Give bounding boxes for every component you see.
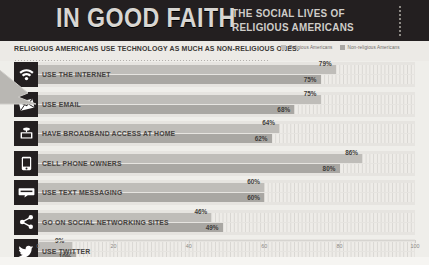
row-bars: 75%68%: [38, 92, 415, 117]
wifi-icon: [14, 62, 38, 87]
page-footer-edge: [0, 257, 429, 265]
share-network-icon: [14, 210, 38, 235]
row-label-broadband: HAVE BROADBAND ACCESS AT HOME: [42, 129, 175, 138]
bar-value-social-networking-non-religious: 49%: [206, 224, 219, 231]
axis-tick-label-0: 0: [37, 243, 40, 249]
bar-value-text-messaging-religious: 60%: [247, 178, 260, 185]
mobile-phone-icon: [14, 151, 38, 176]
dotted-rule: [14, 60, 269, 61]
envelope-icon: [14, 92, 38, 117]
chart-row-email: 75%68%USE EMAIL: [14, 92, 415, 117]
chart-row-broadband: 64%62%HAVE BROADBAND ACCESS AT HOME: [14, 121, 415, 146]
bar-track-religious-americans: [38, 95, 415, 104]
infographic-page: IN GOOD FAITH THE SOCIAL LIVES OF RELIGI…: [0, 0, 429, 265]
row-label-internet: USE THE INTERNET: [42, 70, 111, 79]
desktop-computer-icon: [14, 121, 38, 146]
bar-chart: 79%75%USE THE INTERNET75%68%USE EMAIL64%…: [0, 62, 429, 265]
legend-item-non-religious: Non-religious Americans: [340, 45, 400, 50]
chart-row-social-networking: 46%49%GO ON SOCIAL NETWORKING SITES: [14, 210, 415, 235]
axis-tick-label-20: 20: [110, 243, 116, 249]
bar-value-broadband-religious: 64%: [262, 119, 275, 126]
header-banner: IN GOOD FAITH THE SOCIAL LIVES OF RELIGI…: [0, 0, 429, 41]
axis-line: [38, 240, 415, 241]
chart-legend: Religious Americans Non-religious Americ…: [281, 45, 400, 50]
legend-item-religious: Religious Americans: [281, 45, 333, 50]
bar-value-internet-non-religious: 75%: [304, 76, 317, 83]
chart-row-text-messaging: 60%60%USE TEXT MESSAGING: [14, 180, 415, 205]
legend-label-non-religious: Non-religious Americans: [348, 45, 400, 50]
page-title: IN GOOD FAITH: [56, 2, 236, 35]
axis-tick-label-60: 60: [261, 243, 267, 249]
row-label-email: USE EMAIL: [42, 100, 81, 109]
row-label-cellphone: CELL PHONE OWNERS: [42, 159, 122, 168]
bar-value-cellphone-non-religious: 80%: [323, 165, 336, 172]
axis-tick-label-80: 80: [337, 243, 343, 249]
bar-value-internet-religious: 79%: [319, 60, 332, 67]
row-label-social-networking: GO ON SOCIAL NETWORKING SITES: [42, 218, 169, 227]
bar-track-non-religious-americans: [38, 105, 415, 114]
x-axis: 020406080100: [38, 240, 415, 256]
speech-bubble-icon: [14, 180, 38, 205]
chart-title: RELIGIOUS AMERICANS USE TECHNOLOGY AS MU…: [14, 45, 299, 52]
page-subtitle: THE SOCIAL LIVES OF RELIGIOUS AMERICANS: [232, 7, 354, 34]
chart-row-internet: 79%75%USE THE INTERNET: [14, 62, 415, 87]
row-label-text-messaging: USE TEXT MESSAGING: [42, 188, 122, 197]
subtitle-line-1: THE SOCIAL LIVES OF: [232, 7, 354, 21]
legend-swatch-non-religious: [340, 45, 345, 50]
bar-value-text-messaging-non-religious: 60%: [247, 194, 260, 201]
bar-value-email-religious: 75%: [304, 90, 317, 97]
legend-label-religious: Religious Americans: [289, 45, 333, 50]
bar-value-broadband-non-religious: 62%: [255, 135, 268, 142]
bar-value-cellphone-religious: 86%: [345, 149, 358, 156]
subtitle-line-2: RELIGIOUS AMERICANS: [232, 21, 354, 35]
bar-value-social-networking-religious: 46%: [194, 208, 207, 215]
chart-header-bar: RELIGIOUS AMERICANS USE TECHNOLOGY AS MU…: [0, 41, 429, 61]
legend-swatch-religious: [281, 45, 286, 50]
header-dotted-divider: [399, 5, 401, 36]
axis-tick-label-40: 40: [186, 243, 192, 249]
axis-tick-label-100: 100: [411, 243, 420, 249]
bar-value-email-non-religious: 68%: [277, 106, 290, 113]
chart-row-cellphone: 86%80%CELL PHONE OWNERS: [14, 151, 415, 176]
